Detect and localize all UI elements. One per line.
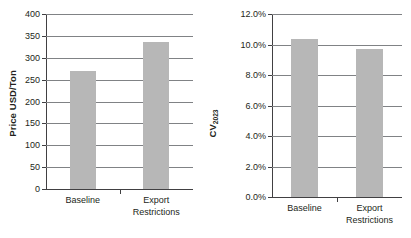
gridline bbox=[46, 36, 193, 37]
gridline bbox=[46, 102, 193, 103]
y-axis-tick-label: 0.0% bbox=[230, 192, 266, 202]
x-axis-category-label: Baseline bbox=[272, 203, 337, 215]
y-axis-tick bbox=[42, 14, 46, 15]
gridline bbox=[46, 14, 193, 15]
y-axis-tick bbox=[268, 45, 272, 46]
y-axis-tick-label: 4.0% bbox=[230, 131, 266, 141]
y-axis-tick bbox=[268, 167, 272, 168]
x-axis-category-label: Baseline bbox=[46, 195, 120, 207]
y-axis-tick bbox=[268, 136, 272, 137]
y-axis-tick-label: 6.0% bbox=[230, 101, 266, 111]
x-axis-category-label: Export Restrictions bbox=[120, 195, 194, 218]
chart-panel-price: Price USD/Ton 050100150200250300350400Ba… bbox=[0, 0, 200, 238]
y-axis-tick-label: 2.0% bbox=[230, 162, 266, 172]
y-axis-tick bbox=[42, 189, 46, 190]
gridline bbox=[272, 14, 402, 15]
y-axis-tick-label: 8.0% bbox=[230, 70, 266, 80]
y-axis-title-cv: CV2023 bbox=[207, 98, 218, 150]
y-axis-tick-label: 200 bbox=[10, 97, 40, 107]
y-axis-tick bbox=[268, 106, 272, 107]
y-axis-tick-label: 50 bbox=[10, 162, 40, 172]
y-axis-tick-label: 100 bbox=[10, 140, 40, 150]
y-axis-title-cv-subscript: 2023 bbox=[212, 109, 219, 124]
bar[interactable] bbox=[70, 71, 96, 189]
y-axis-tick-label: 350 bbox=[10, 31, 40, 41]
gridline bbox=[46, 167, 193, 168]
y-axis-tick-label: 250 bbox=[10, 75, 40, 85]
y-axis-tick bbox=[42, 167, 46, 168]
y-axis-tick-label: 400 bbox=[10, 9, 40, 19]
y-axis-tick bbox=[42, 102, 46, 103]
bar[interactable] bbox=[143, 42, 169, 189]
y-axis-tick-label: 0 bbox=[10, 184, 40, 194]
y-axis-tick bbox=[42, 80, 46, 81]
x-axis-tick bbox=[120, 190, 121, 194]
chart-panel-cv: CV2023 0.0%2.0%4.0%6.0%8.0%10.0%12.0%Bas… bbox=[200, 0, 411, 238]
y-axis-tick bbox=[268, 197, 272, 198]
plot-area-cv: 0.0%2.0%4.0%6.0%8.0%10.0%12.0%BaselineEx… bbox=[272, 15, 402, 198]
y-axis-tick bbox=[42, 123, 46, 124]
gridline bbox=[46, 123, 193, 124]
gridline bbox=[46, 145, 193, 146]
y-axis-line-cv bbox=[272, 15, 273, 198]
y-axis-tick-label: 150 bbox=[10, 118, 40, 128]
y-axis-tick-label: 300 bbox=[10, 53, 40, 63]
bar[interactable] bbox=[356, 49, 383, 197]
y-axis-tick bbox=[268, 14, 272, 15]
gridline bbox=[46, 58, 193, 59]
x-axis-tick bbox=[337, 198, 338, 202]
y-axis-tick-label: 10.0% bbox=[230, 40, 266, 50]
plot-area-price: 050100150200250300350400BaselineExport R… bbox=[46, 15, 193, 190]
y-axis-tick bbox=[42, 145, 46, 146]
y-axis-title-cv-base: CV bbox=[207, 124, 218, 137]
y-axis-line-price bbox=[46, 15, 47, 190]
gridline bbox=[46, 80, 193, 81]
y-axis-tick bbox=[268, 75, 272, 76]
y-axis-tick bbox=[42, 58, 46, 59]
figure-two-bar-charts: Price USD/Ton 050100150200250300350400Ba… bbox=[0, 0, 411, 238]
x-axis-category-label: Export Restrictions bbox=[337, 203, 402, 226]
y-axis-tick-label: 12.0% bbox=[230, 9, 266, 19]
y-axis-tick bbox=[42, 36, 46, 37]
bar[interactable] bbox=[291, 39, 318, 197]
